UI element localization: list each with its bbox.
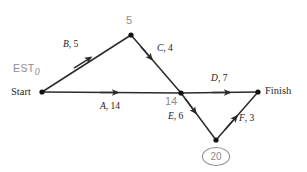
event-time-bottom: 20 [202,147,230,166]
est-tag: EST0 [13,63,40,74]
edge-B [42,35,131,92]
node-finish [255,89,260,94]
event-time-middle: 14 [165,96,177,107]
activity-duration-F: 3 [250,113,255,123]
network-diagram: EST0 Start Finish 5 14 20 B, 5 C, 4 A, 1… [0,0,307,172]
activity-duration-A: 14 [111,101,121,111]
activity-duration-E: 6 [179,111,184,121]
est-tag-value: 0 [35,66,40,77]
edge-C [131,35,181,93]
node-start [39,89,44,94]
activity-label-B: B, 5 [63,40,78,50]
activity-duration-C: 4 [168,43,173,53]
node-middle [178,90,183,95]
activity-label-E: E, 6 [168,112,183,122]
node-top [128,32,133,37]
activity-label-D: D, 7 [211,74,227,84]
est-tag-text: EST [13,62,35,74]
activity-duration-D: 7 [223,73,228,83]
activity-label-C: C, 4 [157,44,173,54]
event-time-top: 5 [126,15,132,26]
arrowhead-E [185,98,196,113]
start-label: Start [11,87,31,98]
activity-duration-B: 5 [74,39,79,49]
activity-label-A: A, 14 [100,102,120,112]
arrowhead-C [141,47,152,60]
activity-label-F: F, 3 [239,114,254,124]
activity-letter-D: D [211,73,218,83]
arrowhead-F [225,116,237,130]
node-bottom [213,137,218,142]
finish-label: Finish [265,86,291,97]
network-graph-canvas [0,0,307,172]
